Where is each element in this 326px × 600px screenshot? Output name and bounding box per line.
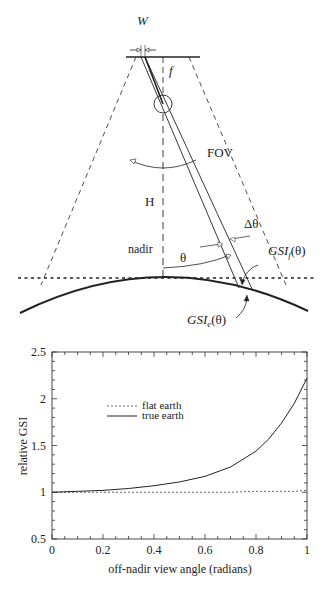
sensor-geometry-diagram bbox=[18, 45, 315, 318]
label-theta: θ bbox=[180, 250, 186, 265]
plot-frame bbox=[52, 352, 307, 539]
label-w: W bbox=[137, 13, 149, 28]
y-tick-label: 0.5 bbox=[31, 532, 46, 546]
label-nadir: nadir bbox=[128, 242, 153, 256]
x-tick-label: 0.2 bbox=[96, 543, 111, 557]
y-tick-label: 2.5 bbox=[31, 345, 46, 359]
y-tick-label: 2 bbox=[40, 392, 46, 406]
gsi-chart: 00.20.40.60.810.511.522.5 flat earth tru… bbox=[16, 345, 310, 576]
x-axis-label: off-nadir view angle (radians) bbox=[108, 562, 251, 576]
x-tick-label: 0.4 bbox=[147, 543, 162, 557]
label-f: f bbox=[169, 63, 175, 78]
series-true-earth bbox=[52, 378, 307, 492]
label-h: H bbox=[145, 194, 154, 209]
x-tick-label: 0.8 bbox=[249, 543, 264, 557]
y-axis-label: relative GSI bbox=[16, 417, 30, 475]
x-tick-label: 0.6 bbox=[198, 543, 213, 557]
legend-true-earth: true earth bbox=[142, 409, 184, 421]
label-fov: FOV bbox=[207, 145, 234, 160]
x-tick-label: 0 bbox=[49, 543, 55, 557]
curved-earth bbox=[20, 277, 308, 313]
label-gsi-e: GSIe(θ) bbox=[187, 312, 226, 329]
figure: W f FOV H nadir θ Δθ GSIf(θ) GSIe(θ) 00.… bbox=[0, 0, 326, 600]
label-delta-theta: Δθ bbox=[244, 216, 259, 231]
y-tick-label: 1.5 bbox=[31, 439, 46, 453]
legend: flat earth true earth bbox=[107, 399, 184, 421]
label-gsi-f: GSIf(θ) bbox=[268, 243, 306, 260]
y-tick-label: 1 bbox=[40, 485, 46, 499]
x-tick-label: 1 bbox=[304, 543, 310, 557]
